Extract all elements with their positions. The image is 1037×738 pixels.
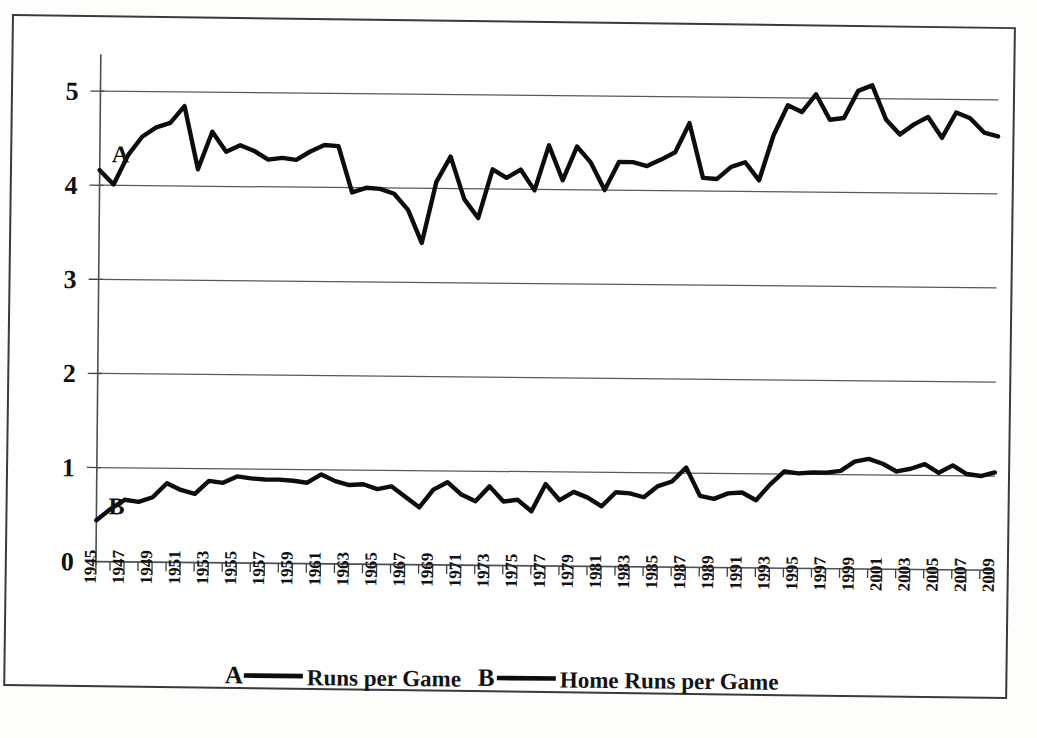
line-chart: 0123451945194719491951195319551957195919…	[0, 0, 1037, 738]
x-tick-label-1983: 1983	[614, 555, 633, 589]
legend-label-B: Home Runs per Game	[560, 668, 779, 695]
gridline-y-2	[98, 373, 996, 382]
x-tick-label-1989: 1989	[698, 555, 717, 589]
x-tick-label-1967: 1967	[389, 552, 408, 587]
x-tick-label-2003: 2003	[895, 557, 914, 591]
x-tick-label-1993: 1993	[754, 556, 773, 590]
x-tick-label-1945: 1945	[81, 549, 100, 583]
x-tick-label-2007: 2007	[951, 557, 970, 592]
x-tick-label-2005: 2005	[923, 558, 942, 592]
legend-tag-A: A	[225, 661, 243, 688]
x-tick-label-1975: 1975	[502, 554, 521, 588]
y-tick-label-0: 0	[61, 547, 74, 576]
scanned-page: 0123451945194719491951195319551957195919…	[0, 0, 1037, 738]
x-tick-label-1971: 1971	[446, 553, 465, 587]
x-tick-label-1991: 1991	[726, 556, 745, 590]
x-tick-label-1959: 1959	[277, 551, 296, 585]
y-tick-label-2: 2	[63, 359, 76, 388]
x-tick-label-1979: 1979	[558, 554, 577, 588]
y-tick-label-3: 3	[64, 265, 77, 294]
x-tick-label-1999: 1999	[838, 557, 857, 591]
x-tick-label-2001: 2001	[866, 557, 885, 591]
x-tick-label-1987: 1987	[670, 555, 689, 590]
x-tick-label-1969: 1969	[417, 553, 436, 587]
y-tick-label-4: 4	[64, 171, 77, 200]
legend-tag-B: B	[478, 664, 495, 691]
x-tick-label-1997: 1997	[810, 556, 829, 591]
y-tick-label-1: 1	[62, 453, 75, 482]
x-tick-label-1963: 1963	[333, 552, 352, 586]
x-tick-label-1955: 1955	[221, 551, 240, 585]
series-tag-a: A	[112, 141, 130, 167]
legend-label-A: Runs per Game	[307, 665, 461, 691]
legend-swatch-A	[244, 676, 303, 677]
gridline-y-3	[99, 279, 997, 288]
x-tick-label-1957: 1957	[249, 551, 268, 586]
x-tick-label-1977: 1977	[530, 553, 549, 588]
legend-swatch-B	[497, 678, 556, 679]
x-tick-label-1981: 1981	[586, 554, 605, 588]
gridline-y-5	[100, 91, 998, 100]
x-tick-label-2009: 2009	[979, 558, 998, 592]
x-tick-label-1947: 1947	[109, 549, 128, 584]
series-line-A	[99, 78, 999, 248]
series-line-B	[96, 452, 995, 529]
x-tick-label-1973: 1973	[474, 553, 493, 587]
gridline-y-4	[100, 185, 998, 194]
x-tick-label-1995: 1995	[782, 556, 801, 590]
x-tick-label-1961: 1961	[305, 552, 324, 586]
x-tick-label-1985: 1985	[642, 555, 661, 589]
x-tick-label-1951: 1951	[165, 550, 184, 584]
series-tag-b: B	[108, 493, 124, 519]
gridline-y-1	[97, 468, 995, 477]
x-tick-label-1965: 1965	[361, 552, 380, 586]
chart-canvas: 0123451945194719491951195319551957195919…	[0, 0, 1037, 738]
y-axis-line	[96, 54, 101, 565]
x-tick-label-1953: 1953	[193, 551, 212, 585]
x-tick-label-1949: 1949	[137, 550, 156, 584]
y-tick-label-5: 5	[65, 77, 78, 106]
